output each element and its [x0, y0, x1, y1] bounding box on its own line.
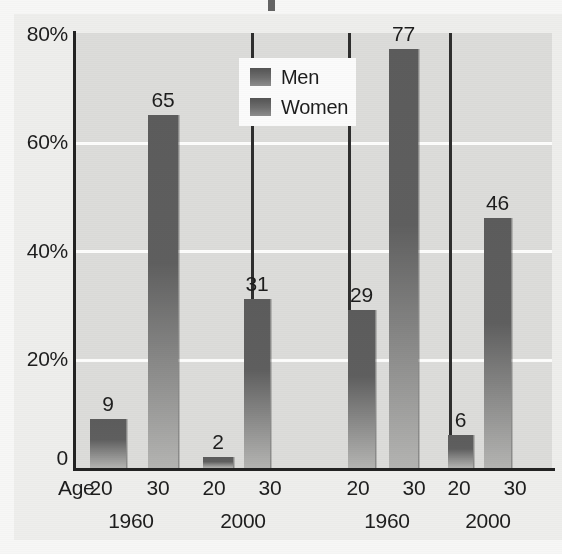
bar-value-label: 6 [434, 408, 487, 432]
x-axis-year-label: 2000 [458, 509, 518, 533]
y-axis-tick-label: 0 [0, 446, 68, 470]
bar-value-label: 31 [230, 272, 284, 296]
y-axis-tick-label: 40% [0, 239, 68, 263]
x-axis-age-tick: 20 [342, 476, 374, 500]
y-axis-tick-label: 80% [0, 22, 68, 46]
y-axis-tick-label: 60% [0, 130, 68, 154]
x-axis-age-tick: 20 [443, 476, 475, 500]
x-axis-year-label: 2000 [213, 509, 273, 533]
bar [348, 310, 375, 468]
bar [148, 115, 178, 468]
bar-value-label: 2 [189, 430, 247, 454]
legend-label-women: Women [281, 96, 348, 119]
bar [389, 49, 418, 468]
x-axis-age-tick: 20 [85, 476, 117, 500]
legend-swatch-women-icon [250, 98, 271, 116]
x-axis-age-tick: 30 [398, 476, 430, 500]
bar [484, 218, 511, 468]
x-axis-age-tick: 20 [198, 476, 230, 500]
x-axis-age-tick: 30 [254, 476, 286, 500]
x-axis-line [73, 468, 555, 471]
legend-swatch-men-icon [250, 68, 271, 86]
bar-value-label: 46 [470, 191, 525, 215]
x-axis-age-tick: 30 [499, 476, 531, 500]
x-axis-age-tick: 30 [142, 476, 174, 500]
x-axis-year-label: 1960 [101, 509, 161, 533]
y-axis-tick-label: 20% [0, 347, 68, 371]
legend-item-men: Men [250, 62, 356, 92]
bar [448, 435, 473, 468]
bar-value-label: 65 [134, 88, 192, 112]
bar-value-label: 29 [334, 283, 389, 307]
bar [90, 419, 126, 468]
cropped-title-fragment [268, 0, 275, 11]
group-divider [449, 33, 452, 468]
bar [244, 299, 270, 468]
bar [203, 457, 233, 468]
x-axis-year-label: 1960 [357, 509, 417, 533]
bar-value-label: 77 [375, 22, 432, 46]
chart-figure: 80%60%40%20%0 9652312977646 Men Women Ag… [0, 0, 562, 554]
bar-value-label: 9 [76, 392, 140, 416]
legend-label-men: Men [281, 66, 319, 89]
y-axis-tick-labels: 80%60%40%20%0 [0, 0, 68, 554]
x-axis-tick-labels: Age 20302030203020301960200019602000 [0, 474, 562, 554]
chart-legend: Men Women [239, 58, 356, 126]
legend-item-women: Women [250, 92, 356, 122]
